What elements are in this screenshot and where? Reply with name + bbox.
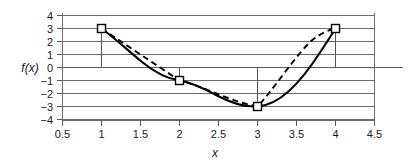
y-tick-label: −1 xyxy=(40,75,53,87)
data-point-marker xyxy=(332,25,340,33)
y-tick-label: 0 xyxy=(47,62,53,74)
y-tick-label: 4 xyxy=(47,10,53,22)
y-tick-label: 3 xyxy=(47,23,53,35)
x-tick-label: 3 xyxy=(254,128,260,140)
chart-figure: 4 3 2 1 0 −1 −2 −3 −4 0.5 1 1.5 2 2.5 3 … xyxy=(0,0,411,163)
x-tick-label: 2.5 xyxy=(211,128,226,140)
y-axis-ticks xyxy=(57,16,62,120)
x-tick-label: 4.5 xyxy=(367,128,382,140)
x-tick-label: 1.5 xyxy=(133,128,148,140)
x-tick-label: 3.5 xyxy=(289,128,304,140)
data-point-marker xyxy=(176,77,184,85)
x-tick-label: 2 xyxy=(176,128,182,140)
y-tick-label: −2 xyxy=(40,88,53,100)
x-tick-label: 4 xyxy=(332,128,338,140)
x-tick-label: 0.5 xyxy=(55,128,70,140)
data-point-marker xyxy=(98,25,106,33)
function-plot: 4 3 2 1 0 −1 −2 −3 −4 0.5 1 1.5 2 2.5 3 … xyxy=(0,0,411,163)
y-tick-label: 2 xyxy=(47,36,53,48)
x-axis-title: x xyxy=(211,146,219,160)
y-tick-label: 1 xyxy=(47,49,53,61)
x-axis-tick-labels: 0.5 1 1.5 2 2.5 3 3.5 4 4.5 xyxy=(55,128,382,140)
y-axis-tick-labels: 4 3 2 1 0 −1 −2 −3 −4 xyxy=(40,10,53,126)
y-axis-title: f(x) xyxy=(21,61,38,75)
data-point-marker xyxy=(254,103,262,111)
x-tick-label: 1 xyxy=(98,128,104,140)
y-tick-label: −4 xyxy=(40,114,53,126)
y-tick-label: −3 xyxy=(40,101,53,113)
